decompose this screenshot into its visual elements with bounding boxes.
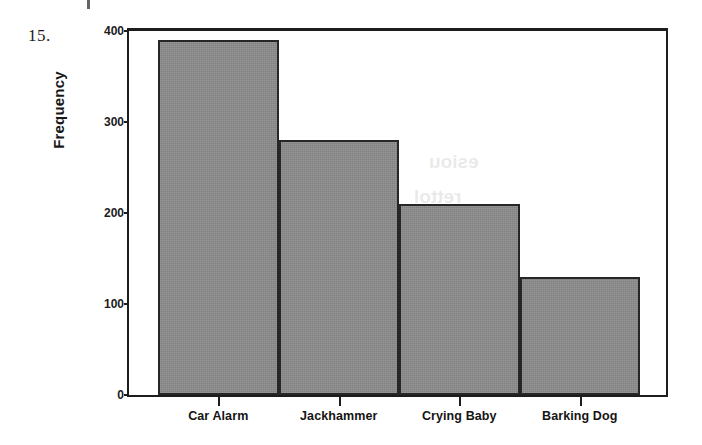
bar (158, 40, 279, 395)
x-tick-label: Crying Baby (422, 409, 497, 423)
y-tick-label: 300 (82, 115, 124, 129)
chart-plot-frame: esiourettolyrotsiH (127, 28, 668, 397)
y-tick-label: 100 (82, 297, 124, 311)
x-axis-labels: Car AlarmJackhammerCrying BabyBarking Do… (127, 409, 668, 431)
y-axis-title: Frequency (50, 50, 70, 170)
x-tick-label: Car Alarm (188, 409, 248, 423)
page-showthrough-text: esiou (429, 151, 479, 173)
x-tick-mark (218, 397, 220, 406)
bar (399, 204, 520, 395)
y-tick-label: 400 (82, 24, 124, 38)
x-tick-label: Jackhammer (300, 409, 377, 423)
x-tick-mark (580, 397, 582, 406)
chart-plot-area: esiourettolyrotsiH (129, 31, 666, 395)
y-tick-label: 0 (82, 388, 124, 402)
question-number: 15. (28, 26, 51, 46)
x-tick-mark (339, 397, 341, 406)
bar (279, 140, 400, 395)
y-tick-label: 200 (82, 206, 124, 220)
x-tick-label: Barking Dog (542, 409, 617, 423)
bar (520, 277, 641, 395)
y-axis-ticks: 0100200300400 (74, 28, 124, 397)
x-tick-mark (459, 397, 461, 406)
scan-artifact (87, 0, 90, 9)
x-axis-ticks (127, 397, 668, 409)
